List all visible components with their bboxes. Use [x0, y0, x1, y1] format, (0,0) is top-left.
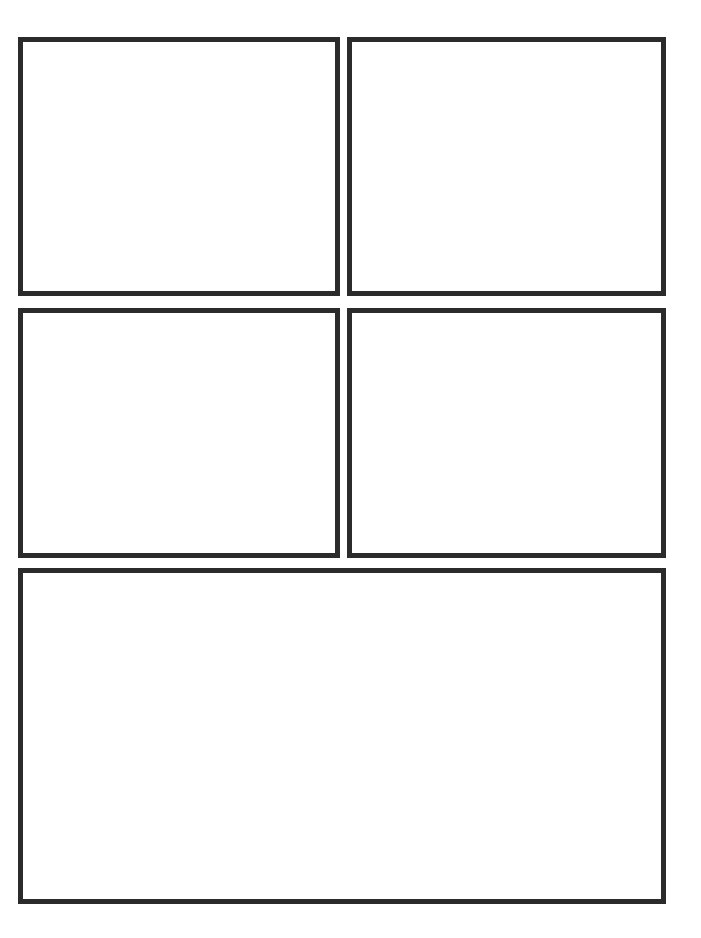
- page-canvas: [0, 0, 701, 938]
- panel-bottom-wide[interactable]: [18, 568, 666, 904]
- panel-bottom-wide-content: [23, 573, 661, 899]
- panel-middle-right-content: [352, 313, 661, 553]
- panel-middle-right[interactable]: [347, 308, 666, 558]
- panel-middle-left[interactable]: [18, 308, 340, 558]
- panel-top-right-content: [352, 42, 661, 291]
- panel-top-left[interactable]: [18, 37, 340, 296]
- panel-middle-left-content: [23, 313, 335, 553]
- panel-top-right[interactable]: [347, 37, 666, 296]
- panel-top-left-content: [23, 42, 335, 291]
